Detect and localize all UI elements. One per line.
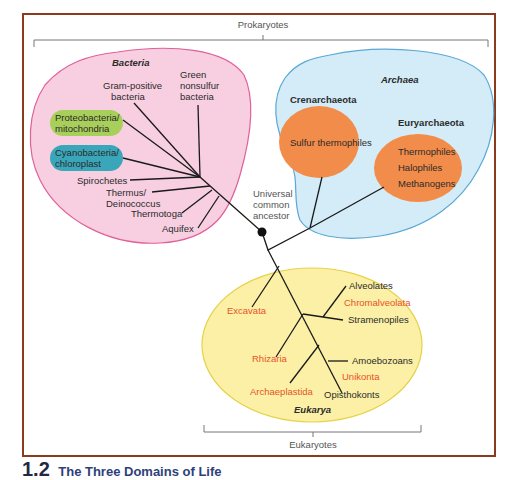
svg-text:mitochondria: mitochondria (55, 123, 110, 134)
prokaryotes-label: Prokaryotes (238, 19, 289, 30)
stramenopiles-label: Stramenopiles (348, 314, 409, 325)
sulfur-thermophiles-label: Sulfur thermophiles (290, 137, 372, 148)
eukaryotes-bracket: Eukaryotes (204, 425, 421, 450)
halophiles-label: Halophiles (398, 162, 443, 173)
svg-text:bacteria: bacteria (180, 91, 215, 102)
archaeplastida-label: Archaeplastida (250, 386, 314, 397)
excavata-label: Excavata (227, 305, 267, 316)
bacteria-domain-label: Bacteria (112, 57, 150, 68)
svg-text:nonsulfur: nonsulfur (180, 80, 219, 91)
methanogens-label: Methanogens (398, 178, 456, 189)
universal-ancestor-label: Universal common ancestor (253, 188, 293, 221)
universal-ancestor-node (258, 228, 267, 237)
euryarchaeota-label: Euryarchaeota (398, 117, 465, 128)
svg-text:ancestor: ancestor (253, 210, 289, 221)
spirochetes-label: Spirochetes (77, 175, 127, 186)
svg-text:Universal: Universal (253, 188, 293, 199)
crenarchaeota-label: Crenarchaeota (290, 94, 357, 105)
amoebozoans-label: Amoebozoans (352, 355, 413, 366)
rhizaria-label: Rhizaria (252, 353, 288, 364)
eukaryotes-label: Eukaryotes (289, 439, 337, 450)
figure-caption: 1.2 The Three Domains of Life (22, 458, 222, 480)
svg-text:Cyanobacteria/: Cyanobacteria/ (55, 147, 119, 158)
alveolates-label: Alveolates (349, 280, 393, 291)
aquifex-label: Aquifex (162, 223, 194, 234)
svg-text:chloroplast: chloroplast (55, 158, 101, 169)
thermotoga-label: Thermotoga (131, 208, 183, 219)
prokaryotes-bracket: Prokaryotes (34, 19, 488, 47)
thermophiles-label: Thermophiles (398, 146, 456, 157)
unikonta-label: Unikonta (342, 371, 380, 382)
archaea-domain-label: Archaea (380, 74, 419, 85)
figure-title: The Three Domains of Life (58, 464, 221, 479)
svg-text:Proteobacteria/: Proteobacteria/ (55, 112, 120, 123)
figure-number: 1.2 (22, 458, 50, 480)
opisthokonts-label: Opisthokonts (324, 389, 380, 400)
svg-text:Gram-positive: Gram-positive (103, 80, 162, 91)
eukarya-region (202, 268, 422, 422)
svg-text:Thermus/: Thermus/ (106, 187, 146, 198)
svg-text:Green: Green (180, 69, 206, 80)
chromalveolata-label: Chromalveolata (344, 297, 411, 308)
eukarya-domain-label: Eukarya (294, 404, 331, 415)
svg-text:common: common (253, 199, 289, 210)
svg-text:bacteria: bacteria (111, 91, 146, 102)
